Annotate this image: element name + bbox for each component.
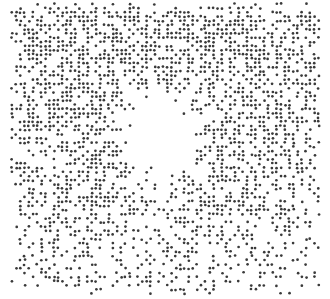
stipple-artwork: Stippled halftone square with white star… <box>0 0 330 299</box>
stipple-canvas <box>0 0 330 299</box>
